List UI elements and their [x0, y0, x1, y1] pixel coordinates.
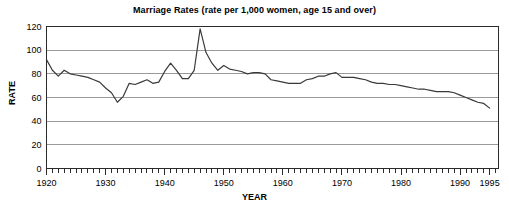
data-line-marriage-rate [47, 29, 490, 108]
y-tick-label: 20 [31, 140, 41, 150]
y-tick-label: 80 [31, 69, 41, 79]
y-tick-label: 60 [31, 93, 41, 103]
x-tick-label: 1960 [273, 178, 293, 188]
x-tick-labels: 192019301940195019601970198019901995 [36, 178, 499, 188]
x-tick-label: 1950 [214, 178, 234, 188]
y-tick-label: 0 [36, 164, 41, 174]
x-tick-label: 1930 [96, 178, 116, 188]
x-tick-label: 1990 [450, 178, 470, 188]
x-tick-label: 1970 [332, 178, 352, 188]
y-tick-label: 120 [26, 22, 41, 32]
x-tick-label: 1940 [155, 178, 175, 188]
y-tick-labels: 020406080100120 [26, 22, 41, 174]
x-minor-ticks [47, 169, 496, 174]
x-tick-label: 1920 [36, 178, 56, 188]
chart-container: Marriage Rates (rate per 1,000 women, ag… [0, 0, 509, 212]
x-major-ticks [47, 169, 490, 176]
y-tick-label: 40 [31, 116, 41, 126]
x-tick-label: 1995 [480, 178, 500, 188]
y-tick-label: 100 [26, 45, 41, 55]
x-tick-label: 1980 [391, 178, 411, 188]
chart-plot: 020406080100120 192019301940195019601970… [0, 0, 509, 212]
